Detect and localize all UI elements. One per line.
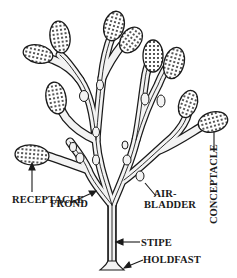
label-air-bladder: AIR- BLADDER	[144, 188, 186, 210]
stipe-arrowhead	[116, 239, 123, 245]
holdfast	[100, 261, 124, 270]
label-conceptacle: CONCEPTACLE	[208, 144, 219, 224]
label-holdfast: HOLDFAST	[143, 254, 201, 265]
label-air-bladder-line2: BLADDER	[144, 199, 186, 210]
seaweed-diagram: RECEPTACLE FROND AIR- BLADDER STIPE HOLD…	[0, 0, 237, 278]
label-stipe: STIPE	[141, 237, 172, 248]
label-air-bladder-line1: AIR-	[144, 188, 186, 199]
seaweed-illustration	[0, 0, 237, 278]
holdfast-arrowhead	[124, 262, 131, 268]
frond-arrowhead	[89, 191, 96, 196]
label-frond: FROND	[50, 198, 88, 209]
